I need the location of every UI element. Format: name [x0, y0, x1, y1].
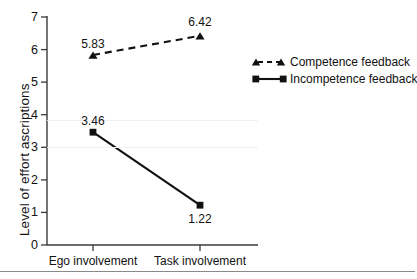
series-incompetence-feedback: [90, 129, 204, 209]
legend-label-competence-feedback: Competence feedback: [290, 56, 410, 68]
y-tick-label-6: 6: [22, 44, 38, 57]
data-label-competence-ego: 5.83: [73, 38, 113, 50]
marker-incompetence-task: [197, 202, 204, 209]
legend-glyphs: [252, 59, 287, 83]
scan-artifact-line: [47, 147, 258, 148]
marker-competence-task: [195, 32, 204, 39]
data-label-incompetence-ego: 3.46: [73, 115, 113, 127]
data-label-incompetence-task: 1.22: [180, 213, 220, 225]
y-axis-ticks: [41, 17, 47, 245]
y-tick-label-5: 5: [22, 76, 38, 89]
y-tick-label-4: 4: [22, 109, 38, 122]
legend-label-incompetence-feedback: Incompetence feedback: [290, 73, 417, 85]
y-tick-label-0: 0: [22, 239, 38, 252]
legend-marker-incompetence-right: [280, 76, 287, 83]
series-incompetence-line: [93, 132, 200, 205]
y-tick-label-3: 3: [22, 141, 38, 154]
legend-marker-incompetence-left: [252, 76, 259, 83]
marker-incompetence-ego: [90, 129, 97, 136]
y-tick-label-2: 2: [22, 174, 38, 187]
x-tick-label-task-involvement: Task involvement: [150, 255, 250, 267]
x-axis-ticks: [93, 245, 200, 251]
data-label-competence-task: 6.42: [180, 16, 220, 28]
x-tick-label-ego-involvement: Ego involvement: [43, 255, 143, 267]
y-tick-label-7: 7: [22, 11, 38, 24]
page-bottom-rule: [0, 271, 415, 272]
y-tick-label-1: 1: [22, 206, 38, 219]
